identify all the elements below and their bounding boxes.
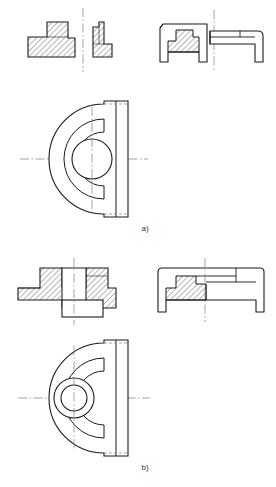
technical-drawing-canvas: a) <box>0 0 276 487</box>
figure-b-caption: b) <box>141 463 148 472</box>
drawing-svg: a) <box>0 0 276 487</box>
front-lower-boss <box>62 300 103 317</box>
page-background <box>0 0 276 487</box>
figure-a-caption: a) <box>141 224 148 233</box>
